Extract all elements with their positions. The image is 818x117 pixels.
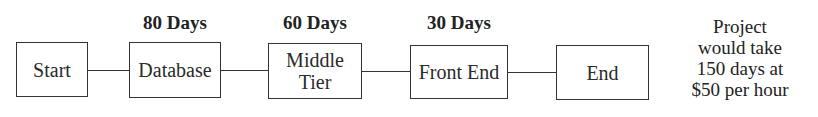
project-cost-note: Project would take 150 days at $50 per h… — [682, 16, 798, 100]
node-database: Database — [129, 42, 221, 98]
note-line-3: 150 days at — [682, 58, 798, 79]
connector-database-middle-tier — [221, 70, 268, 71]
note-line-2: would take — [682, 37, 798, 58]
duration-label-middle-tier: 60 Days — [268, 12, 362, 34]
connector-start-database — [88, 70, 129, 71]
connector-middle-tier-front-end — [362, 71, 410, 72]
node-end: End — [556, 45, 649, 100]
node-front-end-label: Front End — [419, 61, 500, 83]
node-middle-tier: Middle Tier — [268, 43, 362, 99]
node-start: Start — [16, 42, 88, 97]
node-end-label: End — [586, 62, 618, 84]
note-line-1: Project — [682, 16, 798, 37]
node-front-end: Front End — [410, 45, 508, 99]
duration-label-front-end: 30 Days — [410, 12, 508, 34]
note-line-4: $50 per hour — [682, 79, 798, 100]
node-middle-tier-label-line1: Middle — [286, 49, 344, 71]
node-middle-tier-label-line2: Tier — [299, 71, 332, 93]
connector-front-end-end — [508, 72, 556, 73]
node-start-label: Start — [33, 59, 71, 81]
node-database-label: Database — [138, 59, 211, 81]
duration-label-database: 80 Days — [129, 12, 221, 34]
